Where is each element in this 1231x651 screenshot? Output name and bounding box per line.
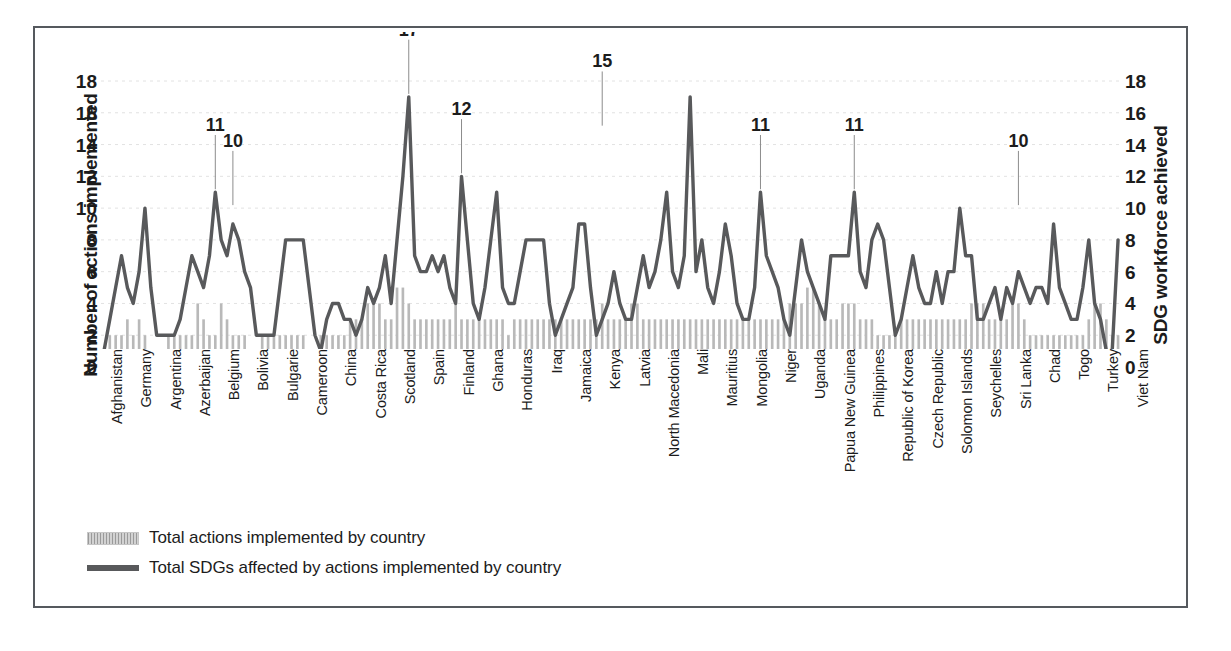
bar bbox=[431, 319, 434, 349]
bar bbox=[1023, 319, 1026, 349]
bar bbox=[753, 319, 756, 349]
bar bbox=[1011, 303, 1014, 349]
bar bbox=[1117, 335, 1120, 349]
x-axis-label: Togo bbox=[1076, 349, 1092, 380]
bar bbox=[824, 319, 827, 349]
x-axis-label: Philippines bbox=[871, 349, 887, 417]
x-axis-label: Afghanistan bbox=[109, 349, 125, 424]
bar bbox=[906, 319, 909, 349]
bar bbox=[261, 335, 264, 349]
y-tick-label: 14 bbox=[63, 135, 97, 154]
x-axis-label: Argentina bbox=[168, 349, 184, 410]
bar bbox=[531, 319, 534, 349]
bar bbox=[636, 303, 639, 349]
y-tick-label: 10 bbox=[63, 199, 97, 218]
bar bbox=[466, 319, 469, 349]
bar bbox=[759, 319, 762, 349]
data-point-label: 11 bbox=[845, 115, 864, 135]
bar bbox=[572, 319, 575, 349]
bar bbox=[402, 288, 405, 349]
y-tick-label: 6 bbox=[1125, 262, 1159, 281]
bar bbox=[982, 303, 985, 349]
x-axis-label: Turkey bbox=[1105, 349, 1121, 392]
bar bbox=[812, 288, 815, 349]
x-axis-label: Honduras bbox=[519, 349, 535, 411]
bar bbox=[196, 303, 199, 349]
bar bbox=[1046, 335, 1049, 349]
bar bbox=[548, 319, 551, 349]
x-axis-label: Iraq bbox=[549, 349, 565, 373]
bar bbox=[1064, 335, 1067, 349]
bar bbox=[871, 319, 874, 349]
bar bbox=[853, 303, 856, 349]
bar bbox=[1052, 335, 1055, 349]
bar bbox=[929, 319, 932, 349]
bar bbox=[718, 319, 721, 349]
x-axis-label: Mongolia bbox=[754, 349, 770, 407]
bar bbox=[484, 319, 487, 349]
bar bbox=[443, 319, 446, 349]
x-axis-label: Czech Republic bbox=[930, 349, 946, 448]
bar bbox=[525, 319, 528, 349]
bar bbox=[730, 319, 733, 349]
y-axis-left-ticks: 024681012141618 bbox=[63, 28, 97, 328]
bar bbox=[507, 335, 510, 349]
bar bbox=[1087, 319, 1090, 349]
x-axis-label: Ghana bbox=[490, 349, 506, 392]
bar bbox=[273, 335, 276, 349]
bar bbox=[472, 319, 475, 349]
bar bbox=[519, 319, 522, 349]
x-axis-label: Jamaica bbox=[578, 349, 594, 402]
bar bbox=[448, 319, 451, 349]
bar bbox=[185, 335, 188, 349]
bar bbox=[173, 335, 176, 349]
bar bbox=[490, 319, 493, 349]
bar bbox=[654, 319, 657, 349]
bar bbox=[126, 319, 129, 349]
bar bbox=[267, 335, 270, 349]
bar bbox=[1070, 335, 1073, 349]
bar bbox=[806, 288, 809, 349]
bar bbox=[114, 335, 117, 349]
bar bbox=[536, 319, 539, 349]
bar bbox=[566, 319, 569, 349]
bar bbox=[232, 335, 235, 349]
chart-screenshot: Number of actions implemented SDG workfo… bbox=[0, 0, 1231, 651]
legend-item-bars: Total actions implemented by country bbox=[87, 523, 1087, 553]
bar bbox=[777, 319, 780, 349]
bar bbox=[202, 319, 205, 349]
bar bbox=[613, 319, 616, 349]
bar-swatch-icon bbox=[87, 532, 139, 545]
bar bbox=[677, 319, 680, 349]
bar bbox=[583, 319, 586, 349]
x-axis-label: Republic of Korea bbox=[900, 349, 916, 462]
y-tick-label: 4 bbox=[63, 294, 97, 313]
bar bbox=[970, 303, 973, 349]
bar bbox=[689, 319, 692, 349]
x-axis-label: Chad bbox=[1047, 349, 1063, 383]
bar bbox=[706, 319, 709, 349]
x-axis-label: Bolivia bbox=[255, 349, 271, 391]
legend-item-line: Total SDGs affected by actions implement… bbox=[87, 553, 1087, 583]
bar bbox=[736, 319, 739, 349]
bar bbox=[1058, 335, 1061, 349]
bar bbox=[302, 335, 305, 349]
bar bbox=[917, 319, 920, 349]
bar bbox=[1005, 319, 1008, 349]
bar bbox=[1035, 335, 1038, 349]
bar bbox=[220, 303, 223, 349]
y-axis-right-ticks: 024681012141618 bbox=[1125, 28, 1159, 328]
bar bbox=[859, 319, 862, 349]
y-tick-label: 16 bbox=[63, 103, 97, 122]
bar bbox=[542, 319, 545, 349]
bar bbox=[988, 319, 991, 349]
bar bbox=[642, 319, 645, 349]
data-point-label: 10 bbox=[223, 131, 243, 151]
bar bbox=[138, 319, 141, 349]
bar bbox=[407, 303, 410, 349]
bar bbox=[618, 319, 621, 349]
bar bbox=[378, 303, 381, 349]
label-leader-lines bbox=[215, 40, 1018, 205]
bar bbox=[765, 319, 768, 349]
bar bbox=[331, 335, 334, 349]
